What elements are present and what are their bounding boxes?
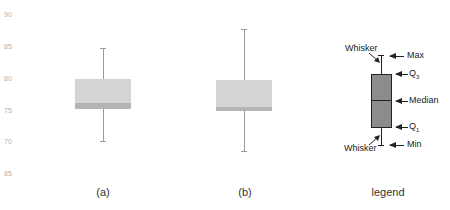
whisker-lower-b <box>244 111 245 151</box>
caption-b: (b) <box>238 186 251 198</box>
legend-label-median: Median <box>409 95 439 105</box>
q1-sub: 1 <box>416 127 419 133</box>
y-tick-85: 85 <box>4 43 28 50</box>
whisker-lower-a <box>103 109 104 141</box>
y-tick-70: 70 <box>4 138 28 145</box>
chart: 90 85 80 75 70 65 Whisker <box>0 0 450 210</box>
y-tick-65: 65 <box>4 170 28 177</box>
whisker-upper-a <box>103 48 104 79</box>
whisker-upper-b <box>244 29 245 80</box>
q1-main: Q <box>409 121 416 131</box>
y-tick-80: 80 <box>4 75 28 82</box>
legend-median-line <box>371 100 392 101</box>
legend-label-max: Max <box>407 50 424 60</box>
arrow-icon <box>396 101 408 102</box>
arrow-icon <box>396 74 408 75</box>
whisker-cap-min-a <box>100 141 106 142</box>
legend-label-min: Min <box>407 139 422 149</box>
caption-a: (a) <box>96 186 109 198</box>
legend-label-q1: Q1 <box>409 121 419 133</box>
arrow-icon <box>390 56 404 57</box>
caption-legend: legend <box>371 186 404 198</box>
arrow-icon <box>368 52 382 66</box>
arrow-icon <box>396 127 408 128</box>
arrow-icon <box>368 133 382 147</box>
q3-main: Q <box>409 68 416 78</box>
legend-label-q3: Q3 <box>409 68 419 80</box>
y-tick-75: 75 <box>4 107 28 114</box>
y-tick-90: 90 <box>4 11 28 18</box>
whisker-cap-min-b <box>241 151 247 152</box>
arrow-icon <box>390 145 404 146</box>
q3-sub: 3 <box>416 74 419 80</box>
legend-box <box>371 74 392 128</box>
